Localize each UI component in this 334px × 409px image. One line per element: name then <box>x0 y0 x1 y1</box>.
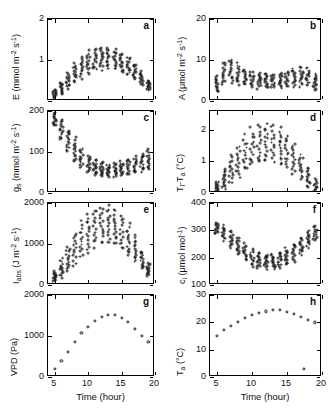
data-point <box>222 224 225 227</box>
x-axis-tick <box>322 111 323 115</box>
data-point <box>258 130 261 133</box>
data-point <box>222 174 225 177</box>
data-point <box>140 158 143 161</box>
y-axis-title: Tl-Ta (°C) <box>175 110 188 192</box>
plot-frame: h <box>209 294 321 376</box>
plot-frame: c <box>47 110 154 192</box>
y-axis-tick-label: 0 <box>39 372 44 381</box>
data-point <box>252 135 255 138</box>
data-point <box>314 73 317 76</box>
data-point <box>74 139 77 142</box>
y-axis-tick-label: 2 <box>201 124 206 133</box>
data-point <box>264 310 267 313</box>
chart-panel-e: e010002000Iabs (J m-2 s-1) <box>47 202 154 284</box>
data-point <box>235 152 238 155</box>
data-point <box>237 253 240 256</box>
data-point <box>266 268 269 271</box>
data-point <box>258 160 261 163</box>
data-point <box>147 79 150 82</box>
data-point <box>107 225 110 228</box>
data-point <box>94 216 97 219</box>
data-point <box>258 155 261 158</box>
data-point <box>279 136 282 139</box>
data-point <box>280 162 283 165</box>
data-point <box>293 143 296 146</box>
data-point <box>245 146 248 149</box>
data-point <box>294 170 297 173</box>
data-point <box>236 61 239 64</box>
data-point <box>92 225 95 228</box>
data-point <box>264 135 267 138</box>
data-point <box>105 51 108 54</box>
data-point <box>285 310 288 313</box>
data-point <box>280 150 283 153</box>
data-point <box>224 61 227 64</box>
data-point <box>287 71 290 74</box>
data-point <box>128 225 131 228</box>
data-point <box>74 240 77 243</box>
data-point <box>106 210 109 213</box>
data-point <box>122 235 125 238</box>
data-point <box>264 140 267 143</box>
data-point <box>75 256 78 259</box>
data-point <box>266 254 269 257</box>
chart-panel-d: d012Tl-Ta (°C) <box>209 110 321 192</box>
y-axis-tick-label: 2 <box>39 14 44 23</box>
data-point <box>67 255 70 258</box>
data-point <box>115 162 118 165</box>
data-point <box>54 89 57 92</box>
data-point <box>245 142 248 145</box>
data-point <box>272 123 275 126</box>
x-axis-tick <box>322 372 323 376</box>
data-points-layer <box>48 203 153 283</box>
data-point <box>100 212 103 215</box>
y-axis-tick-label: 300 <box>191 225 206 234</box>
x-axis-tick-label: 10 <box>82 379 92 388</box>
data-point <box>286 135 289 138</box>
data-point <box>101 241 104 244</box>
data-point <box>99 217 102 220</box>
data-point <box>230 67 233 70</box>
x-axis-tick <box>322 19 323 23</box>
data-point <box>252 132 255 135</box>
data-point <box>284 144 287 147</box>
data-point <box>251 71 254 74</box>
data-point <box>256 87 259 90</box>
y-axis-title: A (μmol m-2 s-1) <box>175 18 187 100</box>
panel-label-g: g <box>143 297 149 307</box>
figure-panel-grid: a12E (mmol m-2 s-1)c0100200gs (mmol m-2 … <box>0 0 334 409</box>
y-axis-tick <box>210 193 214 194</box>
data-point <box>224 179 227 182</box>
y-axis-tick-label: 2000 <box>24 198 44 207</box>
y-axis-tick-label: 400 <box>191 198 206 207</box>
data-point <box>217 180 220 183</box>
data-point <box>228 181 231 184</box>
data-point <box>259 71 262 74</box>
data-point <box>133 247 136 250</box>
data-point <box>230 177 233 180</box>
y-axis-title: Iabs (J m-2 s-1) <box>9 202 24 284</box>
data-point <box>298 85 301 88</box>
chart-panel-b: b01020A (μmol m-2 s-1) <box>209 18 321 100</box>
data-point <box>94 239 97 242</box>
data-point <box>80 243 83 246</box>
data-point <box>222 66 225 69</box>
data-point <box>257 123 260 126</box>
data-point <box>122 69 125 72</box>
data-point <box>61 130 64 133</box>
data-point <box>122 230 125 233</box>
data-point <box>102 208 105 211</box>
y-axis-tick-label: 1 <box>201 156 206 165</box>
data-point <box>252 153 255 156</box>
data-point <box>222 227 225 230</box>
data-point <box>214 221 217 224</box>
data-point <box>245 245 248 248</box>
data-point <box>140 70 143 73</box>
y-axis-tick <box>150 193 154 194</box>
y-axis-tick-label: 10 <box>196 55 206 64</box>
data-point <box>120 239 123 242</box>
data-point <box>273 74 276 77</box>
data-point <box>80 331 83 334</box>
data-point <box>114 225 117 228</box>
data-point <box>306 185 309 188</box>
